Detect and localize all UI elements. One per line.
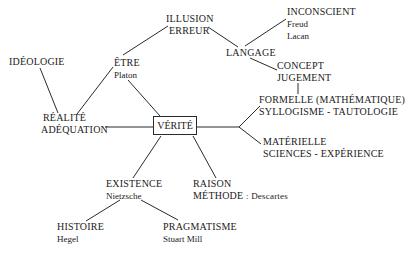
node-label: ERREUR [166, 25, 214, 37]
node-label: MATÉRIELLE [263, 136, 384, 148]
node-formelle: FORMELLE (MATHÉMATIQUE) SYLLOGISME - TAU… [259, 94, 405, 118]
node-pragmatisme: PRAGMATISME Stuart Mill [163, 221, 237, 245]
node-label: SYLLOGISME - TAUTOLOGIE [259, 106, 405, 118]
edge-etre-illusion [123, 26, 168, 55]
edge-existence-pragmatisme [141, 200, 178, 220]
node-concept-jugement: CONCEPT JUGEMENT [277, 60, 331, 84]
node-illusion-erreur: ILLUSION ERREUR [166, 13, 214, 37]
node-label: RAISON [193, 178, 288, 190]
node-label: MÉTHODE [193, 190, 243, 201]
node-ideologie: IDÉOLOGIE [9, 56, 65, 68]
node-label: PRAGMATISME [163, 221, 237, 233]
node-label: ADÉQUATION [41, 124, 108, 136]
node-author: Lacan [287, 30, 356, 42]
node-existence: EXISTENCE Nietzsche [106, 178, 162, 202]
edge-fork-formelle [239, 106, 260, 127]
node-label: LANGAGE [226, 47, 276, 59]
node-raison-methode: RAISON MÉTHODE : Descartes [193, 178, 288, 202]
node-inconscient: INCONSCIENT Freud Lacan [287, 6, 356, 42]
node-label: ÊTRE [114, 57, 140, 69]
node-label: IDÉOLOGIE [9, 56, 65, 68]
center-node-verite: VÉRITÉ [153, 116, 197, 135]
edge-etre-verite [128, 80, 160, 116]
node-label: RÉALITÉ [41, 112, 108, 124]
node-label: HISTOIRE [57, 221, 104, 233]
node-author: Stuart Mill [163, 233, 237, 245]
node-author: Freud [287, 18, 356, 30]
edge-ideologie-realite [40, 68, 58, 113]
node-label: EXISTENCE [106, 178, 162, 190]
node-label: JUGEMENT [277, 72, 331, 84]
node-author: : Descartes [246, 191, 288, 201]
node-author: Nietzsche [106, 190, 162, 202]
node-author: Hegel [57, 233, 104, 245]
edge-existence-histoire [86, 200, 120, 221]
node-author: Platon [114, 69, 140, 81]
edge-verite-existence [133, 136, 161, 178]
node-realite-adequation: RÉALITÉ ADÉQUATION [41, 112, 108, 136]
edge-langage-inconscient [245, 19, 286, 46]
node-label: INCONSCIENT [287, 6, 356, 18]
edge-langage-concept [250, 58, 277, 70]
node-label: FORMELLE (MATHÉMATIQUE) [259, 94, 405, 106]
node-label: SCIENCES - EXPÉRIENCE [263, 148, 384, 160]
edge-verite-raison [193, 136, 216, 178]
center-label: VÉRITÉ [157, 120, 193, 131]
node-histoire: HISTOIRE Hegel [57, 221, 104, 245]
edge-fork-materielle [239, 127, 261, 144]
node-etre: ÊTRE Platon [114, 57, 140, 81]
node-label: ILLUSION [166, 13, 214, 25]
edge-realite-etre [77, 67, 113, 114]
node-langage: LANGAGE [226, 47, 276, 59]
node-label: CONCEPT [277, 60, 331, 72]
node-materielle: MATÉRIELLE SCIENCES - EXPÉRIENCE [263, 136, 384, 160]
